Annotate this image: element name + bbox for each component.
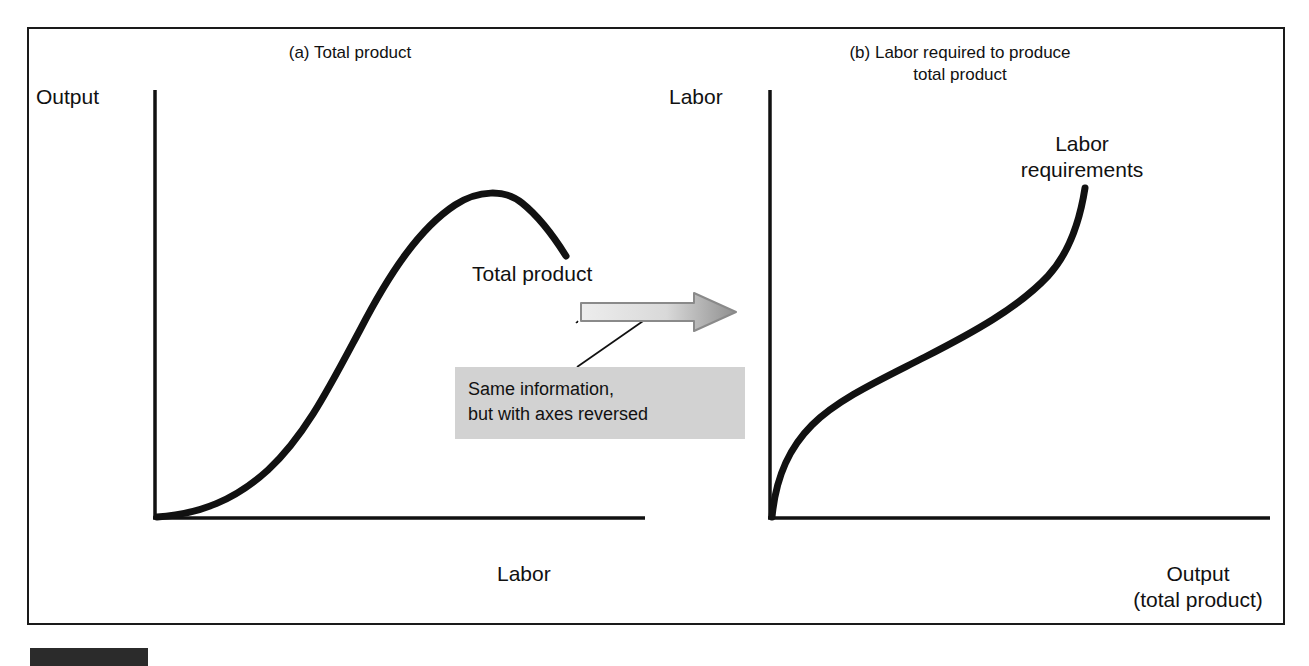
panel-b-x-axis-label: Output (total product) <box>1113 561 1283 613</box>
right-arrow-icon <box>581 293 736 331</box>
labor-requirements-curve-label: Labor requirements <box>992 131 1172 183</box>
callout-arrow-leader <box>577 319 646 367</box>
figure-container: (a) Total product (b) Labor required to … <box>0 0 1309 666</box>
total-product-curve-label: Total product <box>472 261 662 287</box>
panel-a-axes <box>153 90 645 518</box>
caption-tab <box>30 648 148 666</box>
panel-b-title: (b) Labor required to produce total prod… <box>800 42 1120 86</box>
panel-b-y-axis-label: Labor <box>669 84 723 110</box>
callout-text: Same information, but with axes reversed <box>468 377 744 427</box>
pointer-line <box>577 321 578 322</box>
panel-a-title: (a) Total product <box>205 42 495 64</box>
panel-a-y-axis-label: Output <box>36 84 99 110</box>
panel-a-x-axis-label: Labor <box>497 561 657 587</box>
total-product-curve <box>157 193 566 517</box>
labor-requirements-curve <box>772 188 1085 517</box>
leader-line <box>576 322 577 323</box>
